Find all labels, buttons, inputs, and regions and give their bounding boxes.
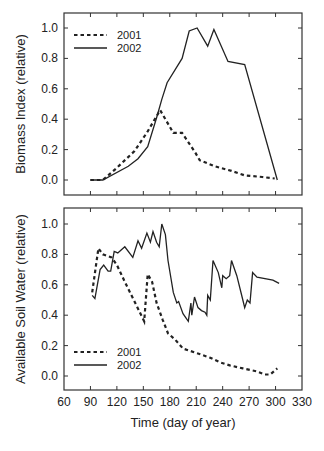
x-tick-label: 60 [57,395,71,409]
y-tick-label: 0.2 [41,339,58,353]
x-tick-label: 120 [107,395,127,409]
series-2001 [90,110,274,180]
x-axis-label: Time (day of year) [131,415,236,430]
figure: 0.00.20.40.60.81.020012002 6090120150180… [0,0,324,451]
x-tick-label: 270 [239,395,259,409]
y-tick-label: 0.4 [41,112,58,126]
x-tick-label: 210 [186,395,206,409]
legend: 20012002 [74,346,141,371]
soil-water-panel: 60901201501802102402703003300.00.20.40.6… [41,208,312,409]
bottom-y-axis-label: Available Soil Water (relative) [13,214,28,384]
legend-label-2002: 2002 [117,359,141,371]
legend: 20012002 [74,29,141,54]
x-tick-label: 300 [266,395,286,409]
biomass-panel: 0.00.20.40.60.81.020012002 [41,13,302,195]
x-tick-label: 150 [133,395,153,409]
x-tick-label: 90 [84,395,98,409]
y-tick-label: 0.6 [41,82,58,96]
plot-frame [64,13,302,195]
y-tick-label: 1.0 [41,217,58,231]
y-tick-label: 0.4 [41,308,58,322]
plot-frame [64,208,302,390]
legend-label-2001: 2001 [117,346,141,358]
x-tick-label: 180 [160,395,180,409]
y-tick-label: 0.8 [41,51,58,65]
y-tick-label: 0.2 [41,143,58,157]
y-tick-label: 0.6 [41,278,58,292]
x-tick-label: 240 [213,395,233,409]
y-tick-label: 0.0 [41,369,58,383]
y-tick-label: 0.8 [41,247,58,261]
legend-label-2001: 2001 [117,29,141,41]
x-tick-label: 330 [292,395,312,409]
y-tick-label: 0.0 [41,173,58,187]
legend-label-2002: 2002 [117,42,141,54]
y-tick-label: 1.0 [41,21,58,35]
top-y-axis-label: Biomass Index (relative) [13,34,28,173]
